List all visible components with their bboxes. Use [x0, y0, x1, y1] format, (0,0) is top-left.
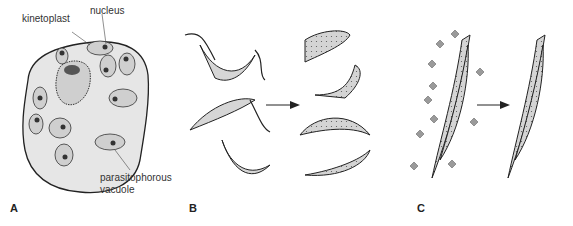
panel-label-C: C	[417, 202, 425, 214]
label-vacuole: vacuole	[100, 184, 134, 195]
label-kinetoplast: kinetoplast	[22, 13, 70, 24]
trypanosomes-before	[190, 45, 270, 174]
organisms-after	[508, 35, 545, 178]
label-parasitophorous: parasitophorous	[100, 172, 172, 183]
organisms-before	[432, 35, 470, 178]
label-nucleus: nucleus	[90, 5, 124, 16]
panel-label-A: A	[10, 202, 18, 214]
arrow-B	[266, 101, 300, 109]
trypanosomes-after	[300, 31, 370, 176]
host-cell	[23, 14, 149, 193]
diagram-canvas	[0, 0, 573, 226]
panel-label-B: B	[189, 202, 197, 214]
arrow-C	[477, 101, 510, 109]
